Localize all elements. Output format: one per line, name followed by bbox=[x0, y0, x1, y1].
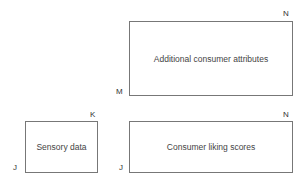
dimension-label-n-top: N bbox=[283, 10, 289, 18]
consumer-liking-scores-block: Consumer liking scores bbox=[129, 121, 293, 173]
dimension-label-k: K bbox=[90, 111, 95, 119]
dimension-label-n-bottom: N bbox=[283, 111, 289, 119]
dimension-label-j-right: J bbox=[119, 164, 123, 172]
block-label: Sensory data bbox=[36, 142, 86, 152]
sensory-data-block: Sensory data bbox=[25, 121, 98, 173]
block-label: Additional consumer attributes bbox=[154, 54, 268, 64]
block-label: Consumer liking scores bbox=[167, 142, 255, 152]
additional-consumer-attributes-block: Additional consumer attributes bbox=[129, 21, 293, 96]
dimension-label-m: M bbox=[116, 88, 123, 96]
dimension-label-j-left: J bbox=[13, 164, 17, 172]
